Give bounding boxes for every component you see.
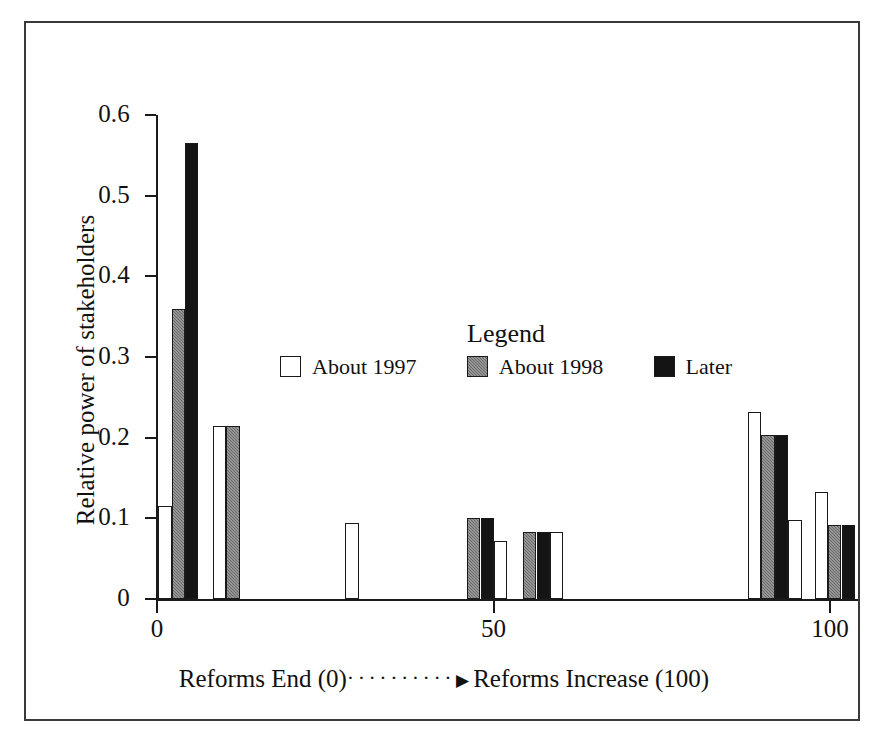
legend-title: Legend	[276, 319, 736, 349]
bar	[345, 523, 358, 599]
y-axis-tick-label: 0.3	[66, 343, 130, 368]
y-axis-tick-mark	[145, 517, 156, 519]
chart-legend: Legend About 1997About 1998Later	[276, 319, 736, 378]
bar	[467, 518, 480, 599]
y-axis-tick-mark	[145, 114, 156, 116]
y-axis-tick-label: 0.1	[66, 504, 130, 529]
bar	[158, 506, 171, 599]
bar	[550, 532, 563, 599]
x-axis-title-left: Reforms End (0)	[179, 665, 347, 692]
bar	[481, 518, 494, 599]
x-axis-dotted-line: ··········	[347, 665, 455, 690]
x-axis-tick-mark	[493, 601, 495, 613]
x-axis-tick-mark	[156, 601, 158, 613]
bar	[537, 532, 550, 599]
y-axis-tick-mark	[145, 195, 156, 197]
arrow-right-icon: ▶	[455, 671, 473, 690]
bar	[226, 426, 239, 599]
legend-item: Later	[654, 355, 732, 378]
y-axis-tick-mark	[145, 598, 156, 600]
legend-item: About 1997	[280, 355, 417, 378]
bar	[494, 541, 507, 599]
legend-item-label: About 1997	[312, 355, 417, 378]
bar	[523, 532, 536, 599]
bar	[788, 520, 801, 599]
legend-item-label: About 1998	[499, 355, 604, 378]
y-axis-tick-label: 0.5	[66, 182, 130, 207]
legend-item-label: Later	[686, 355, 732, 378]
gray-square-swatch	[467, 356, 488, 377]
bar	[815, 492, 828, 599]
bar	[172, 309, 185, 599]
y-axis-tick-mark	[145, 356, 156, 358]
y-axis-tick-label: 0	[66, 585, 130, 610]
x-axis-tick-label: 100	[790, 615, 870, 643]
bar	[213, 426, 226, 599]
y-axis-tick-mark	[145, 437, 156, 439]
x-axis-title: Reforms End (0)··········▶Reforms Increa…	[26, 663, 862, 696]
legend-item: About 1998	[467, 355, 604, 378]
white-square-swatch	[280, 356, 301, 377]
bar	[748, 412, 761, 599]
y-axis-tick-label: 0.6	[66, 101, 130, 126]
bar	[842, 525, 855, 599]
bar	[828, 525, 841, 599]
x-axis-tick-label: 0	[117, 615, 197, 643]
bar	[775, 435, 788, 599]
bar	[185, 143, 198, 599]
legend-items: About 1997About 1998Later	[276, 355, 736, 378]
y-axis-tick-label: 0.2	[66, 424, 130, 449]
x-axis-tick-mark	[829, 601, 831, 613]
bar	[761, 435, 774, 599]
x-axis-line	[156, 599, 858, 601]
y-axis-tick-label: 0.4	[66, 262, 130, 287]
x-axis-title-right: Reforms Increase (100)	[473, 665, 709, 692]
black-square-swatch	[654, 356, 675, 377]
x-axis-tick-label: 50	[454, 615, 534, 643]
y-axis-tick-mark	[145, 275, 156, 277]
figure-frame: Relative power of stakeholders 00.10.20.…	[24, 21, 860, 721]
